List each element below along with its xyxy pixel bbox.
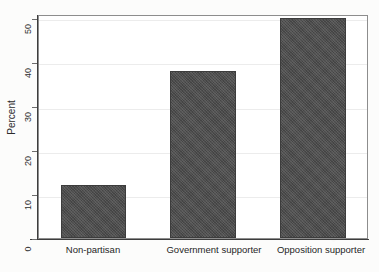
y-tick-label-20: 20 [23,151,33,171]
bar-chart-figure: 50 40 30 20 10 0 Percent Non-partisan Go… [0,0,379,272]
y-axis-line [37,15,38,240]
y-tick-label-10: 10 [23,195,33,215]
bar-opposition-supporter[interactable] [280,18,346,238]
y-tick-label-30: 30 [23,107,33,127]
plot-area [38,15,368,239]
y-tick-label-50: 50 [23,19,33,39]
x-axis-line [30,239,369,240]
y-axis-title: Percent [6,88,17,148]
x-tick-label-opposition-supporter: Opposition supporter [231,244,379,255]
y-tick-label-40: 40 [23,63,33,83]
bar-government-supporter[interactable] [170,71,236,238]
bar-non-partisan[interactable] [61,185,126,238]
